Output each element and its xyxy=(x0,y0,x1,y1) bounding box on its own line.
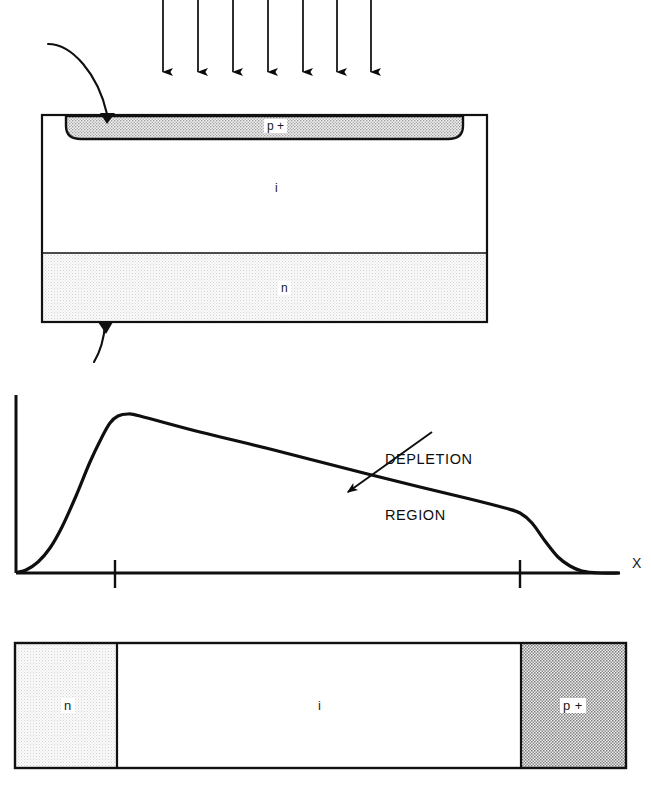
diagram-svg xyxy=(0,0,651,807)
bottom-i-label: i xyxy=(315,698,324,713)
field-profile-graph xyxy=(16,395,620,588)
bottom-contact-lead xyxy=(94,322,113,362)
bottom-lead-contact-blob xyxy=(98,322,113,334)
bottom-p-plus-label: p + xyxy=(560,698,586,713)
depletion-region-callout-line2: REGION xyxy=(385,506,473,525)
graph-x-axis-label: X xyxy=(632,556,641,570)
top-lead-wire xyxy=(48,44,107,114)
top-i-label: i xyxy=(272,181,281,195)
top-contact-lead xyxy=(48,44,115,124)
top-n-layer xyxy=(43,253,486,321)
electric-field-curve xyxy=(18,414,618,573)
top-n-label: n xyxy=(278,281,291,295)
figure-root: p + i n DEPLETION REGION X n i p + xyxy=(0,0,651,807)
top-device-group xyxy=(42,115,487,322)
depletion-region-callout-line1: DEPLETION xyxy=(385,450,473,469)
incident-light-arrow-group xyxy=(163,0,371,72)
depletion-region-callout: DEPLETION REGION xyxy=(385,413,473,561)
top-p-plus-label: p + xyxy=(264,119,287,133)
bottom-n-label: n xyxy=(61,698,75,713)
